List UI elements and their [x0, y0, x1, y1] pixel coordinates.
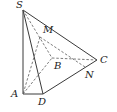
edge-MN [40, 37, 85, 67]
label-A: A [10, 88, 18, 99]
label-B: B [53, 60, 61, 71]
label-N: N [84, 69, 95, 80]
pyramid-diagram: S A B C D M N [0, 0, 117, 112]
label-S: S [16, 0, 23, 10]
solid-edges [23, 10, 97, 94]
label-C: C [100, 54, 108, 65]
label-D: D [37, 96, 46, 107]
edge-SC [23, 10, 97, 60]
edge-AB [23, 58, 52, 94]
label-M: M [42, 24, 54, 35]
edge-SD [23, 10, 43, 94]
